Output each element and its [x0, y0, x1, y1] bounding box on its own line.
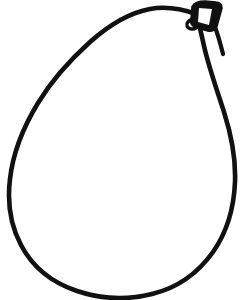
drawing-canvas: Pear Outline Coloring Page — [0, 0, 251, 300]
pear-line-drawing — [0, 0, 251, 300]
